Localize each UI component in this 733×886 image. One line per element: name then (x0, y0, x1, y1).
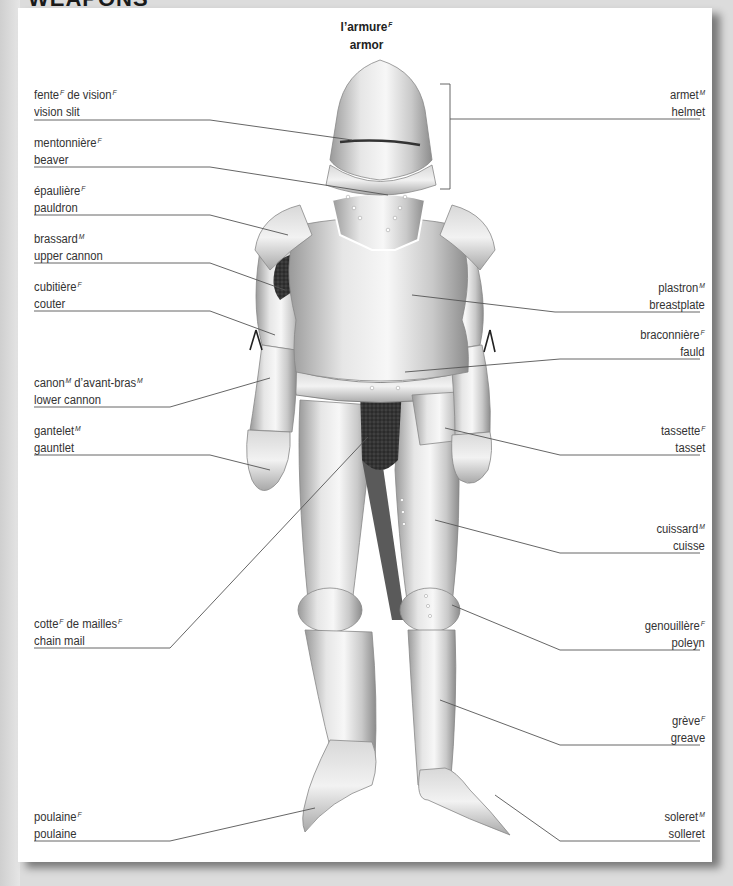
helmet-bracket (440, 84, 450, 189)
label-en: helmet (670, 104, 705, 121)
label-greave: grèveF greave (671, 710, 705, 747)
label-fr: mentonnièreF (34, 132, 102, 152)
label-en: vision slit (34, 104, 117, 121)
label-en: greave (671, 730, 705, 747)
label-fr: cotteF de maillesF (34, 613, 122, 633)
label-fauld: braconnièreF fauld (641, 324, 705, 361)
label-cuisse: cuissardM cuisse (657, 518, 705, 555)
leader-gauntlet (34, 455, 270, 470)
label-fr: cuissardM (657, 518, 705, 538)
label-en: beaver (34, 152, 102, 169)
label-en: poleyn (645, 635, 705, 652)
label-gauntlet: ganteletM gauntlet (34, 420, 81, 457)
label-fr: soleretM (665, 806, 705, 826)
label-fr: genouillèreF (645, 615, 705, 635)
label-fr: poulaineF (34, 806, 82, 826)
label-en: breastplate (649, 297, 705, 314)
label-en: couter (34, 296, 82, 313)
label-fr: armetM (670, 84, 705, 104)
label-poulaine: poulaineF poulaine (34, 806, 82, 843)
leader-beaver (34, 167, 388, 195)
label-en: chain mail (34, 633, 122, 650)
label-breastplate: plastronM breastplate (649, 277, 705, 314)
label-chain-mail: cotteF de maillesF chain mail (34, 613, 122, 650)
label-fr: fenteF de visionF (34, 84, 117, 104)
label-pauldron: épaulièreF pauldron (34, 180, 85, 217)
leader-lines (0, 0, 733, 886)
label-fr: épaulièreF (34, 180, 85, 200)
label-lower-cannon: canonM d’avant-brasM lower cannon (34, 372, 143, 409)
label-fr: cubitièreF (34, 276, 82, 296)
label-vision-slit: fenteF de visionF vision slit (34, 84, 117, 121)
label-fr: grèveF (671, 710, 705, 730)
label-fr: ganteletM (34, 420, 81, 440)
label-en: upper cannon (34, 248, 103, 265)
label-en: tasset (661, 440, 705, 457)
label-en: poulaine (34, 826, 82, 843)
label-en: cuisse (657, 538, 705, 555)
label-en: gauntlet (34, 440, 81, 457)
label-en: lower cannon (34, 392, 143, 409)
label-en: fauld (641, 344, 705, 361)
label-tasset: tassetteF tasset (661, 420, 705, 457)
label-fr: tassetteF (661, 420, 705, 440)
label-solleret: soleretM solleret (665, 806, 705, 843)
label-fr: braconnièreF (641, 324, 705, 344)
label-fr: canonM d’avant-brasM (34, 372, 143, 392)
label-poleyn: genouillèreF poleyn (645, 615, 705, 652)
leader-couter (34, 311, 275, 335)
label-beaver: mentonnièreF beaver (34, 132, 102, 169)
leader-greave (440, 700, 700, 745)
label-fr: plastronM (649, 277, 705, 297)
label-upper-cannon: brassardM upper cannon (34, 228, 103, 265)
label-en: pauldron (34, 200, 85, 217)
label-helmet: armetM helmet (670, 84, 705, 121)
label-en: solleret (665, 826, 705, 843)
label-fr: brassardM (34, 228, 103, 248)
label-couter: cubitièreF couter (34, 276, 82, 313)
